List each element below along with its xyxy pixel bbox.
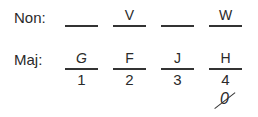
maj-slot-4: H [209, 51, 242, 65]
maj-slot-2-line [113, 68, 146, 70]
position-3: 3 [161, 72, 194, 87]
maj-label: Maj: [14, 51, 42, 68]
non-slot-3-line [161, 25, 194, 27]
maj-slot-1: G [65, 51, 98, 65]
non-slot-4-line [209, 25, 242, 27]
non-slot-2: V [113, 8, 146, 22]
non-slot-2-line [113, 25, 146, 27]
position-4: 4 [209, 72, 242, 87]
non-label: Non: [14, 9, 46, 26]
maj-slot-4-line [209, 68, 242, 70]
maj-slot-2: F [113, 51, 146, 65]
position-1: 1 [65, 72, 98, 87]
position-2: 2 [113, 72, 146, 87]
maj-slot-3-line [161, 68, 194, 70]
non-slot-1-line [65, 25, 98, 27]
non-slot-3 [161, 8, 194, 22]
maj-slot-1-line [65, 68, 98, 70]
non-slot-4: W [209, 8, 242, 22]
non-slot-1 [65, 8, 98, 22]
maj-slot-3: J [161, 51, 194, 65]
